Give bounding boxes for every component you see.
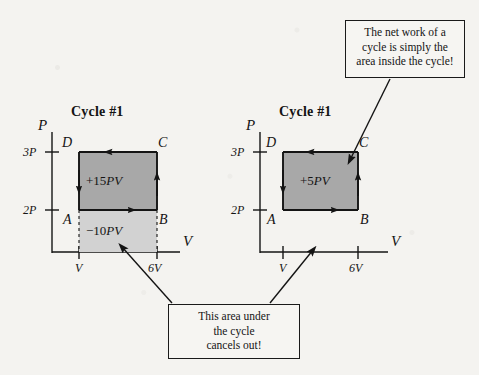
left-tick-v: V: [75, 262, 82, 274]
right-tick-2p: 2P: [231, 204, 244, 216]
right-tick-3p: 3P: [231, 146, 244, 158]
right-tick-6v: 6V: [349, 262, 362, 274]
right-point-b: B: [360, 213, 369, 227]
callout-area-cancels-line2: the cycle: [174, 324, 294, 339]
right-area-inside-label: +5PV: [300, 174, 330, 187]
left-point-c: C: [158, 136, 167, 150]
left-area-inside-label: +15PV: [86, 174, 122, 187]
left-point-d: D: [62, 136, 72, 150]
callout-net-work-line3: area inside the cycle!: [351, 54, 459, 69]
right-panel-title: Cycle #1: [279, 105, 332, 119]
right-axis-label-v: V: [391, 234, 400, 249]
left-axis-label-v: V: [183, 234, 192, 249]
callout-net-work-line1: The net work of a: [351, 25, 459, 40]
left-panel-title: Cycle #1: [71, 105, 124, 119]
left-tick-6v: 6V: [148, 262, 161, 274]
left-axis-label-p: P: [38, 118, 47, 133]
callout-bottom-leader-right: [270, 250, 313, 303]
right-point-a: A: [267, 213, 276, 227]
callout-top-leader: [350, 79, 390, 160]
callout-area-cancels-line3: cancels out!: [174, 338, 294, 353]
left-point-a: A: [63, 213, 72, 227]
callout-net-work: The net work of a cycle is simply the ar…: [345, 20, 465, 78]
callout-bottom-leader-left: [122, 247, 172, 303]
right-point-c: C: [359, 136, 368, 150]
left-tick-3p: 3P: [23, 146, 36, 158]
left-point-b: B: [159, 213, 168, 227]
left-tick-2p: 2P: [23, 204, 36, 216]
right-axis-label-p: P: [246, 118, 255, 133]
right-tick-v: V: [279, 262, 286, 274]
callout-area-cancels: This area under the cycle cancels out!: [168, 304, 300, 359]
right-point-d: D: [266, 136, 276, 150]
callout-net-work-line2: cycle is simply the: [351, 40, 459, 55]
figure-canvas: Cycle #1 P V 3P 2P V 6V D C A B +15PV −1…: [0, 0, 479, 375]
left-area-under-label: −10PV: [86, 224, 122, 237]
callout-area-cancels-line1: This area under: [174, 309, 294, 324]
